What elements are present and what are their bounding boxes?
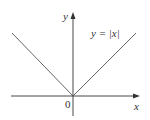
abs-value-plot — [0, 0, 150, 120]
y-axis-arrow-icon — [71, 12, 76, 19]
x-axis-arrow-icon — [133, 94, 140, 99]
equation-label: y = |x| — [91, 28, 120, 39]
abs-value-curve — [12, 33, 136, 96]
origin-label: 0 — [65, 99, 71, 110]
y-axis-label: y — [63, 11, 68, 22]
x-axis-label: x — [134, 101, 139, 112]
